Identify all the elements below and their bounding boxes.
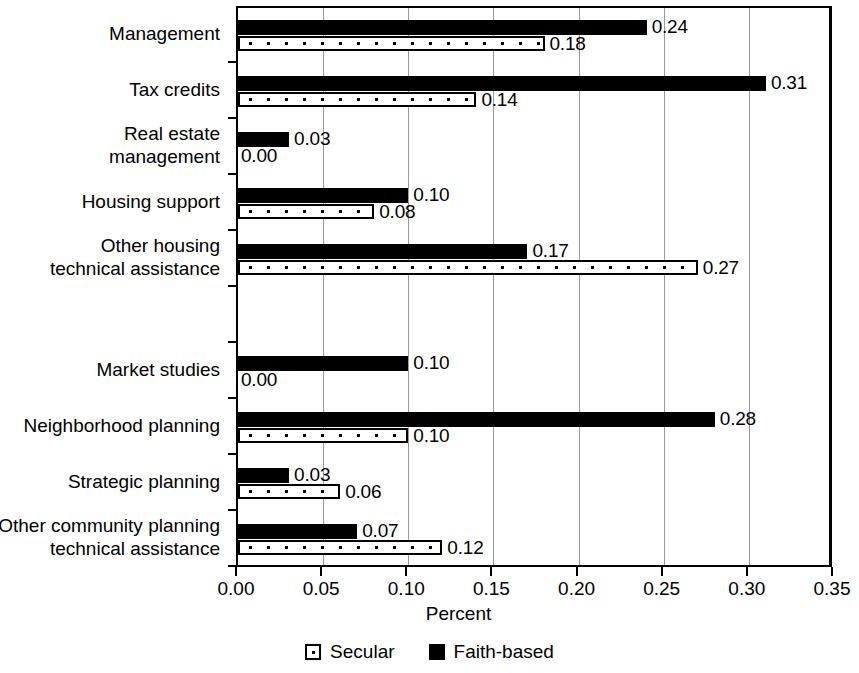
y-axis-category-label: Market studies — [0, 358, 220, 381]
x-axis-tick — [405, 567, 407, 576]
bar-faith-based — [238, 468, 289, 483]
legend-label-secular: Secular — [330, 641, 394, 663]
y-axis-tick — [228, 117, 237, 119]
legend-label-faith-based: Faith-based — [454, 641, 554, 663]
chart-category-row: 0.280.10 — [238, 400, 829, 456]
bar-secular-dot-pattern — [240, 430, 406, 441]
x-axis-tick-label: 0.10 — [366, 578, 446, 600]
y-axis-category-label: Strategic planning — [0, 470, 220, 493]
y-axis-category-label: Neighborhood planning — [0, 414, 220, 437]
value-label-faith-based: 0.24 — [652, 17, 688, 36]
y-axis-tick — [228, 453, 237, 455]
y-axis-tick — [228, 341, 237, 343]
x-axis-tick-label: 0.15 — [451, 578, 531, 600]
bar-secular — [238, 36, 545, 51]
chart-category-row: 0.100.00 — [238, 344, 829, 400]
chart-category-row: 0.170.27 — [238, 232, 829, 288]
legend-swatch-faith-based-icon — [429, 644, 445, 660]
y-axis-category-label: Other housing technical assistance — [0, 234, 220, 280]
y-axis-category-label: Real estate management — [0, 122, 220, 168]
value-label-faith-based: 0.17 — [532, 241, 568, 260]
chart-category-row — [238, 288, 829, 344]
value-label-secular: 0.08 — [379, 202, 415, 221]
bar-faith-based — [238, 244, 527, 259]
x-axis-tick-label: 0.30 — [707, 578, 787, 600]
y-axis-tick — [228, 229, 237, 231]
value-label-secular: 0.27 — [703, 258, 739, 277]
bar-secular — [238, 540, 442, 555]
x-axis-tick — [235, 567, 237, 576]
legend-item-faith-based: Faith-based — [429, 641, 554, 663]
bar-faith-based — [238, 524, 357, 539]
x-axis-tick — [831, 567, 833, 576]
chart-category-row: 0.100.08 — [238, 176, 829, 232]
x-axis-tick-label: 0.05 — [281, 578, 361, 600]
bar-secular — [238, 92, 476, 107]
bar-secular-dot-pattern — [240, 38, 543, 49]
y-axis-tick — [228, 397, 237, 399]
legend-swatch-secular-icon — [305, 644, 321, 660]
bar-secular-dot-pattern — [240, 94, 474, 105]
legend-item-secular: Secular — [305, 641, 394, 663]
chart-category-row: 0.070.12 — [238, 512, 829, 568]
x-axis-tick — [490, 567, 492, 576]
bar-secular — [238, 484, 340, 499]
x-axis-tick — [320, 567, 322, 576]
bar-secular-dot-pattern — [240, 262, 696, 273]
value-label-faith-based: 0.07 — [362, 521, 398, 540]
value-label-faith-based: 0.03 — [294, 465, 330, 484]
value-label-secular: 0.00 — [241, 146, 277, 165]
value-label-faith-based: 0.10 — [413, 185, 449, 204]
value-label-secular: 0.18 — [550, 34, 586, 53]
y-axis-tick — [228, 173, 237, 175]
y-axis-category-label: Management — [0, 22, 220, 45]
value-label-faith-based: 0.28 — [720, 409, 756, 428]
x-axis-tick-label: 0.25 — [622, 578, 702, 600]
y-axis-category-label: Tax credits — [0, 78, 220, 101]
bar-faith-based — [238, 412, 715, 427]
value-label-faith-based: 0.10 — [413, 353, 449, 372]
chart-category-row: 0.310.14 — [238, 64, 829, 120]
bar-secular — [238, 260, 698, 275]
bar-secular-dot-pattern — [240, 486, 338, 497]
chart-category-row: 0.030.06 — [238, 456, 829, 512]
y-axis-category-label: Housing support — [0, 190, 220, 213]
value-label-secular: 0.14 — [481, 90, 517, 109]
value-label-secular: 0.00 — [241, 370, 277, 389]
x-axis-title: Percent — [0, 603, 859, 625]
y-axis-tick — [228, 285, 237, 287]
x-axis-tick-label: 0.00 — [196, 578, 276, 600]
bar-secular — [238, 204, 374, 219]
y-axis-tick — [228, 61, 237, 63]
bar-secular — [238, 428, 408, 443]
bar-secular-dot-pattern — [240, 542, 440, 553]
x-axis-tick — [746, 567, 748, 576]
value-label-secular: 0.12 — [447, 538, 483, 557]
chart-category-row: 0.240.18 — [238, 8, 829, 64]
x-axis-tick — [661, 567, 663, 576]
value-label-faith-based: 0.31 — [771, 73, 807, 92]
bar-secular-dot-pattern — [240, 206, 372, 217]
x-axis-tick-label: 0.35 — [792, 578, 859, 600]
bar-chart-figure: 0.240.180.310.140.030.000.100.080.170.27… — [0, 0, 859, 673]
value-label-secular: 0.10 — [413, 426, 449, 445]
x-axis-tick — [576, 567, 578, 576]
y-axis-tick — [228, 509, 237, 511]
value-label-faith-based: 0.03 — [294, 129, 330, 148]
y-axis-category-label: Other community planning technical assis… — [0, 514, 220, 560]
x-axis-tick-label: 0.20 — [537, 578, 617, 600]
value-label-secular: 0.06 — [345, 482, 381, 501]
chart-legend: Secular Faith-based — [0, 641, 859, 663]
chart-category-row: 0.030.00 — [238, 120, 829, 176]
plot-area: 0.240.180.310.140.030.000.100.080.170.27… — [236, 6, 832, 567]
